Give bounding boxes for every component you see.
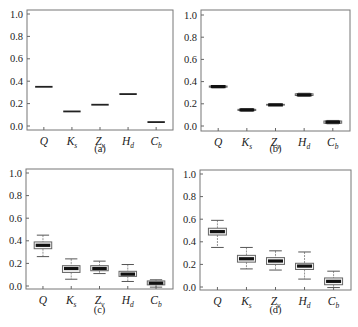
- y-tick-label: 1.0: [183, 169, 196, 180]
- y-tick-label: 0.2: [9, 258, 22, 269]
- y-tick-label: 0.6: [9, 213, 22, 224]
- box-K_s: [237, 247, 255, 268]
- x-category-label: Q: [39, 294, 48, 306]
- panel-caption: (b): [269, 143, 282, 155]
- box-C_b: [147, 280, 165, 287]
- figure-canvas: 0.00.20.40.60.81.0QKsZvHdCb(a)0.00.20.40…: [0, 0, 358, 327]
- y-tick-label: 0.6: [184, 54, 197, 65]
- box-Q: [209, 85, 227, 88]
- y-tick-label: 0.8: [184, 32, 197, 43]
- y-tick-label: 0.2: [184, 98, 197, 109]
- box-C_b: [324, 120, 342, 123]
- x-category-label: Hd: [298, 295, 311, 310]
- y-tick-label: 0.0: [9, 281, 22, 292]
- y-tick-label: 0.8: [10, 31, 23, 42]
- x-category-label: Q: [40, 135, 49, 147]
- box-plot-panel-a: 0.00.20.40.60.81.0QKsZvHdCb(a): [10, 9, 173, 156]
- x-category-label: Ks: [66, 135, 78, 150]
- y-tick-label: 0.6: [10, 53, 23, 64]
- box-K_s: [238, 108, 256, 111]
- box-C_b: [325, 271, 343, 287]
- panel-caption: (a): [94, 143, 106, 155]
- y-tick-label: 1.0: [10, 9, 23, 20]
- x-category-label: Ks: [65, 294, 77, 309]
- box-Z_v: [267, 103, 285, 106]
- y-tick-label: 0.4: [183, 236, 197, 247]
- box-H_d: [296, 252, 314, 279]
- box-H_d: [119, 265, 137, 282]
- y-tick-label: 1.0: [9, 168, 22, 179]
- y-tick-label: 0.8: [9, 190, 22, 201]
- box-H_d: [295, 93, 313, 96]
- y-tick-label: 0.6: [183, 214, 196, 225]
- box-plot-panel-b: 0.00.20.40.60.81.0QKsZvHdCb(b): [184, 10, 350, 156]
- box-Q: [34, 235, 52, 256]
- y-tick-label: 0.2: [10, 98, 23, 109]
- plot-frame: [201, 10, 350, 131]
- panel-caption: (d): [269, 304, 282, 316]
- y-tick-label: 0.4: [10, 76, 24, 87]
- y-tick-label: 0.0: [184, 121, 197, 132]
- x-category-label: Cb: [150, 294, 162, 309]
- x-category-label: Hd: [121, 135, 134, 150]
- y-tick-label: 0.0: [183, 282, 196, 293]
- x-category-label: Ks: [240, 295, 252, 310]
- y-tick-label: 0.8: [183, 191, 196, 202]
- box-Z_v: [266, 251, 284, 270]
- box-plot-panel-c: 0.00.20.40.60.81.0QKsZvHdCb(c): [9, 168, 173, 317]
- x-category-label: Cb: [327, 136, 339, 151]
- x-category-label: Q: [213, 295, 222, 307]
- x-category-label: Ks: [241, 136, 253, 151]
- y-tick-label: 0.4: [184, 76, 198, 87]
- box-K_s: [62, 259, 80, 279]
- x-category-label: Cb: [150, 135, 162, 150]
- x-category-label: Hd: [121, 294, 134, 309]
- y-tick-label: 0.2: [183, 259, 196, 270]
- y-tick-label: 0.0: [10, 121, 23, 132]
- x-category-label: Hd: [297, 136, 310, 151]
- x-category-label: Cb: [328, 295, 340, 310]
- box-plot-panel-d: 0.00.20.40.60.81.0QKsZvHdCb(d): [183, 169, 351, 317]
- y-tick-label: 1.0: [184, 10, 197, 21]
- plot-frame: [27, 10, 173, 130]
- y-tick-label: 0.4: [9, 235, 23, 246]
- box-Q: [208, 220, 226, 247]
- panel-caption: (c): [94, 304, 106, 316]
- x-category-label: Q: [214, 136, 223, 148]
- box-Z_v: [91, 261, 109, 273]
